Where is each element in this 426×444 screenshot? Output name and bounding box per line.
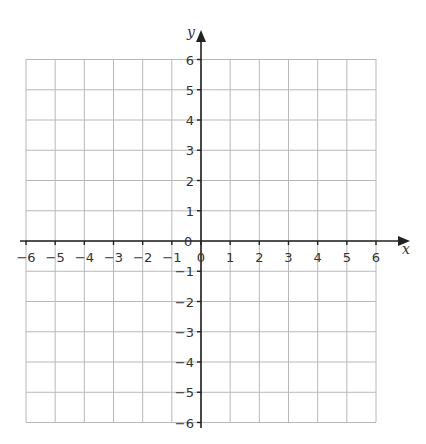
coordinate-grid: x y 0 −6−5−4−3−2−10123456 654321−1−2−3−4… [0, 0, 426, 444]
y-tick-label: −4 [175, 355, 194, 370]
x-axis-label: x [402, 241, 410, 257]
y-tick-label: −2 [175, 295, 194, 310]
x-tick-label: 0 [197, 250, 205, 265]
y-tick-label: 4 [186, 113, 194, 128]
y-tick-label: 6 [186, 53, 194, 68]
y-axis-label: y [186, 24, 196, 40]
x-tick-label: 3 [284, 250, 292, 265]
x-tick-label: 6 [372, 250, 380, 265]
y-tick-label: −3 [175, 325, 194, 340]
x-axis-ticks: −6−5−4−3−2−10123456 [16, 241, 380, 265]
y-tick-label: −1 [175, 264, 194, 279]
x-tick-label: −5 [46, 250, 65, 265]
x-tick-label: −2 [133, 250, 152, 265]
y-tick-label: 3 [186, 143, 194, 158]
y-axis-arrow-icon [196, 30, 206, 42]
x-tick-label: −4 [75, 250, 94, 265]
y-tick-label: 5 [186, 83, 194, 98]
origin-label: 0 [184, 234, 192, 249]
x-tick-label: 2 [255, 250, 263, 265]
y-tick-label: 1 [186, 204, 194, 219]
x-tick-label: −6 [16, 250, 35, 265]
x-tick-label: −1 [162, 250, 181, 265]
y-tick-label: 2 [186, 174, 194, 189]
x-tick-label: 1 [226, 250, 234, 265]
x-tick-label: 5 [343, 250, 351, 265]
x-tick-label: −3 [104, 250, 123, 265]
y-tick-label: −5 [175, 385, 194, 400]
y-tick-label: −6 [175, 416, 194, 431]
x-tick-label: 4 [314, 250, 322, 265]
axes: x y 0 [20, 24, 410, 428]
